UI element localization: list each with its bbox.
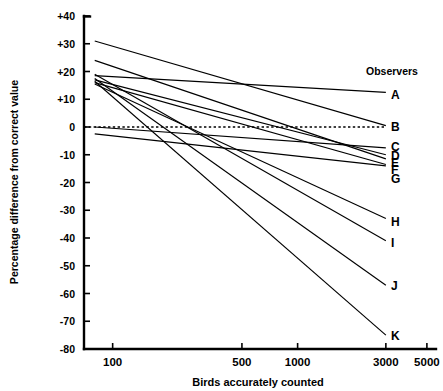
data-series-group [95,41,386,335]
x-tick-label: 500 [232,356,251,368]
series-line-h [95,84,386,219]
y-tick-label: +30 [57,38,75,50]
series-line-b [95,41,386,126]
series-label-b: B [391,120,400,134]
series-line-i [95,74,386,241]
y-tick-label: -70 [60,315,75,327]
y-tick-label: -50 [60,260,75,272]
series-label-i: I [391,236,394,250]
y-tick-label: +10 [57,93,75,105]
y-axis-title: Percentage difference from correct value [8,80,20,284]
series-label-j: J [391,279,398,293]
y-tick-label: -30 [60,204,75,216]
y-tick-label: -60 [60,288,75,300]
x-tick-label: 5000 [414,356,440,368]
series-line-d [95,80,386,155]
series-label-h: H [391,215,400,229]
series-line-k [95,81,386,335]
y-tick-label: -40 [60,232,75,244]
x-axis-title: Birds accurately counted [192,376,323,388]
y-tick-label: -10 [60,149,75,161]
series-label-g: G [391,172,400,186]
legend-title: Observers [366,65,418,77]
x-tick-label: 1000 [285,356,311,368]
series-label-k: K [391,329,400,343]
series-label-group: ABCDEFGHIJK [391,88,400,343]
y-tick-label: -20 [60,177,75,189]
series-line-g [95,134,386,166]
y-tick-label: 0 [69,121,75,133]
line-chart-plot: +40+30+20+100-10-20-30-40-50-60-70-80 10… [0,0,443,391]
x-tick-label: 100 [103,356,122,368]
series-line-f [95,83,386,165]
x-tick-group: 100500100030005000 [103,343,440,368]
series-label-a: A [391,88,400,102]
y-tick-label: -80 [60,343,75,355]
series-line-a [95,76,386,93]
y-tick-label: +40 [57,10,75,22]
chart-container: +40+30+20+100-10-20-30-40-50-60-70-80 10… [0,0,443,391]
y-tick-label: +20 [57,66,75,78]
x-tick-label: 3000 [373,356,399,368]
